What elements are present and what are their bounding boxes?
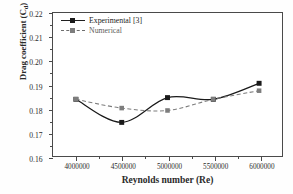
data-point-marker — [165, 95, 170, 100]
legend-swatch-experimental-icon — [61, 16, 85, 25]
y-axis-title-text: Drag coefficient (C — [18, 9, 28, 80]
x-tick-minor — [145, 156, 146, 159]
series-numerical — [74, 88, 262, 112]
data-point-marker — [74, 97, 79, 102]
legend-item-experimental[interactable]: Experimental [3] — [61, 16, 142, 25]
data-point-marker — [119, 120, 124, 125]
x-tick-major: 4500000 — [122, 156, 123, 161]
x-tick-major: 5500000 — [215, 156, 216, 161]
y-axis-title-subscript: d — [22, 6, 29, 10]
y-tick-label: 0.21 — [29, 34, 42, 43]
data-point-marker — [119, 106, 124, 111]
x-tick-minor — [192, 156, 193, 159]
legend-label-numerical: Numerical — [89, 26, 122, 35]
plot-area: 0.160.170.180.190.200.210.22 40000004500… — [52, 12, 283, 157]
data-point-marker — [165, 108, 170, 113]
x-tick-label: 4000000 — [65, 163, 90, 171]
y-axis-title: Drag coefficient (Cd) — [18, 0, 29, 117]
chart-legend: Experimental [3] Numerical — [59, 15, 145, 37]
legend-label-experimental: Experimental [3] — [89, 16, 142, 25]
data-point-marker — [257, 88, 262, 93]
y-axis-title-suffix: ) — [18, 3, 28, 6]
chart-figure: Drag coefficient (Cd) 0.160.170.180.190.… — [0, 0, 293, 194]
x-tick-minor — [238, 156, 239, 159]
y-tick-label: 0.22 — [29, 10, 42, 19]
y-tick-label: 0.19 — [29, 82, 42, 91]
y-tick-label: 0.16 — [29, 155, 42, 164]
x-tick-label: 5000000 — [157, 163, 182, 171]
x-tick-label: 4500000 — [111, 163, 136, 171]
legend-swatch-numerical-icon — [61, 26, 85, 35]
data-point-marker — [257, 81, 262, 86]
y-tick-label: 0.18 — [29, 106, 42, 115]
x-tick-major: 4000000 — [76, 156, 77, 161]
x-tick-label: 5500000 — [203, 163, 228, 171]
series-line — [76, 83, 259, 122]
x-axis-title: Reynolds number (Re) — [52, 175, 283, 185]
legend-item-numerical[interactable]: Numerical — [61, 26, 142, 35]
x-tick-major: 5000000 — [169, 156, 170, 161]
y-tick-label: 0.20 — [29, 58, 42, 67]
y-tick-major: 0.16 — [49, 158, 54, 159]
series-experimental — [73, 81, 261, 125]
x-tick-major: 6000000 — [261, 156, 262, 161]
data-point-marker — [211, 97, 216, 102]
x-tick-minor — [99, 156, 100, 159]
x-tick-label: 6000000 — [249, 163, 274, 171]
y-tick-label: 0.17 — [29, 130, 42, 139]
